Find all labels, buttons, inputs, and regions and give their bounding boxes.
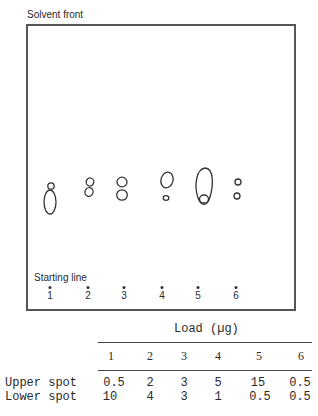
lane-1-lower-spot — [44, 190, 56, 214]
lane-3-lower-spot — [117, 190, 128, 200]
table-header-rule — [98, 370, 312, 371]
tlc-spots — [28, 26, 294, 309]
lane-3-label: 3 — [121, 290, 127, 301]
lane-2-upper-spot — [85, 177, 95, 187]
table-cell: 15 — [251, 376, 265, 390]
lane-1-label: 1 — [47, 290, 53, 301]
table-cell: 1 — [214, 390, 221, 404]
lane-2-lower-spot — [84, 186, 95, 197]
row-label-lower-spot: Lower spot — [5, 390, 77, 404]
lane-2-origin-dot — [87, 286, 90, 289]
lane-6-origin-dot — [235, 286, 238, 289]
lane-1-upper-spot — [48, 183, 54, 189]
lane-1-origin-dot — [49, 286, 52, 289]
lane-2-label: 2 — [85, 290, 91, 301]
table-top-rule — [98, 342, 312, 343]
table-cell: 0.5 — [289, 390, 311, 404]
lane-5-upper-spot — [196, 168, 212, 204]
lane-4-upper-spot — [159, 171, 175, 190]
table-cell: 10 — [103, 390, 117, 404]
lane-3-upper-spot — [117, 177, 127, 187]
table-cell: 0.5 — [103, 376, 125, 390]
lane-5-origin-dot — [197, 286, 200, 289]
table-cell: 0.5 — [249, 390, 271, 404]
table-cell: 3 — [180, 390, 187, 404]
table-cell: 5 — [214, 376, 221, 390]
lane-4-origin-dot — [161, 286, 164, 289]
tlc-plate: Starting line 1 2 3 4 5 6 — [26, 24, 296, 311]
column-header-3: 3 — [181, 349, 187, 364]
lane-6-upper-spot — [235, 179, 241, 185]
column-header-2: 2 — [147, 349, 153, 364]
lane-6-label: 6 — [233, 290, 239, 301]
column-header-1: 1 — [108, 349, 114, 364]
table-cell: 0.5 — [289, 376, 311, 390]
lane-6-lower-spot — [234, 193, 240, 199]
row-label-upper-spot: Upper spot — [5, 376, 77, 390]
lane-4-lower-spot — [163, 196, 169, 201]
lane-3-origin-dot — [123, 286, 126, 289]
lane-5-label: 5 — [195, 290, 201, 301]
lane-4-label: 4 — [159, 290, 165, 301]
load-table-title: Load (µg) — [174, 322, 239, 336]
column-header-5: 5 — [256, 349, 262, 364]
table-cell: 2 — [146, 376, 153, 390]
table-cell: 4 — [146, 390, 153, 404]
column-header-4: 4 — [215, 349, 221, 364]
starting-line-label: Starting line — [34, 272, 87, 283]
table-cell: 3 — [180, 376, 187, 390]
lane-5-lower-spot — [200, 195, 209, 203]
solvent-front-label: Solvent front — [27, 9, 83, 20]
column-header-6: 6 — [298, 349, 304, 364]
